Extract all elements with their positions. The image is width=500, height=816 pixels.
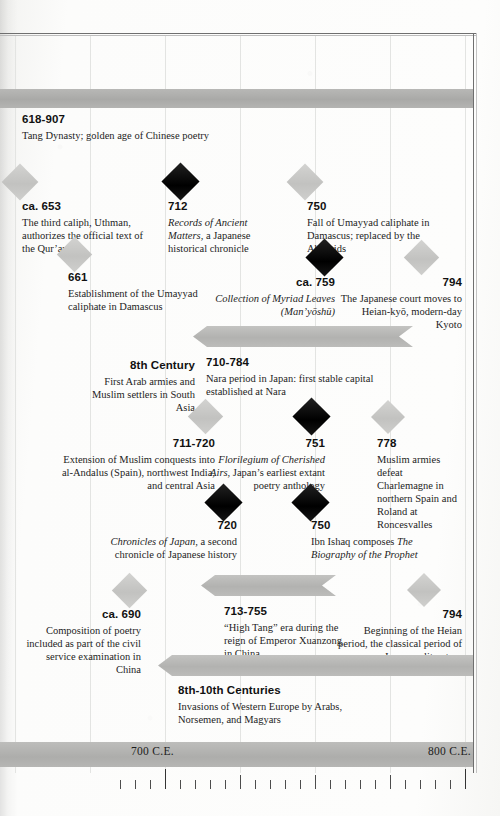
band-desc: Nara period in Japan: first stable capit… (206, 372, 381, 398)
event-desc: Chronicles of Japan, a second chronicle … (80, 535, 237, 561)
event-years: 8th Century (85, 359, 195, 372)
axis-label-800: 800 C.E. (428, 745, 471, 757)
axis-tick (375, 780, 376, 789)
band-years: 8th-10th Centuries (178, 684, 378, 697)
band-desc: Invasions of Western Europe by Arabs, No… (178, 700, 378, 726)
page-frame-right-rule (473, 33, 474, 773)
event-desc: Collection of Myriad Leaves (Man’yōshū) (210, 292, 335, 318)
band-desc: Tang Dynasty; golden age of Chinese poet… (22, 129, 212, 142)
axis-tick (450, 780, 451, 789)
axis-tick (405, 780, 406, 789)
axis-tick (360, 780, 361, 789)
event-years: 778 (377, 437, 459, 450)
event-years: ca. 690 (25, 608, 141, 621)
event-poetry-civil-service: ca. 690 Composition of poetry included a… (25, 608, 141, 676)
event-heian-period-begins: 794 Beginning of the Heian period, the c… (338, 608, 462, 663)
axis-tick (255, 780, 256, 789)
axis-tick (240, 775, 241, 789)
event-uthman-quran: ca. 653 The third caliph, Uthman, author… (22, 200, 152, 255)
axis-tick (165, 769, 166, 789)
event-years: 712 (168, 200, 278, 213)
band-desc: “High Tang” era during the reign of Empe… (224, 621, 344, 660)
event-desc: Establishment of the Umayyad caliphate i… (68, 287, 228, 313)
axis-tick (270, 780, 271, 789)
event-roncesvalles: 778 Muslim armies defeat Charlemagne in … (377, 437, 459, 531)
event-manyoshu: ca. 759 Collection of Myriad Leaves (Man… (210, 276, 335, 318)
axis-tick (120, 780, 121, 789)
diamond-marker-icon-roncesvalles (371, 400, 405, 434)
band-nara-period (193, 326, 413, 347)
event-nihon-shoki: 720 Chronicles of Japan, a second chroni… (80, 519, 237, 561)
event-desc: Ibn Ishaq composes The Biography of the … (311, 535, 446, 561)
axis-tick (315, 775, 316, 789)
event-years: 750 (311, 519, 446, 532)
event-years: 711-720 (55, 437, 215, 450)
axis-tick (150, 780, 151, 789)
event-muslim-conquests-andalus: 711-720 Extension of Muslim conquests in… (55, 437, 215, 492)
event-heian-kyo-move: 794 The Japanese court moves to Heian-ky… (340, 276, 462, 331)
gridline (15, 36, 16, 773)
axis-tick (345, 780, 346, 789)
event-years: ca. 653 (22, 200, 152, 213)
page-frame-top-rule-inner (0, 35, 476, 36)
timeline-axis-ticks (0, 767, 473, 789)
event-kaifuso: 751 Florilegium of Cherished Airs, Japan… (210, 437, 325, 492)
event-years: 661 (68, 271, 228, 284)
event-ibn-ishaq: 750 Ibn Ishaq composes The Biography of … (311, 519, 446, 561)
diamond-marker-icon-heian-period-begins (407, 573, 441, 607)
event-years: 720 (80, 519, 237, 532)
event-desc-title: Collection of Myriad Leaves (Man’yōshū) (215, 293, 335, 317)
axis-tick (195, 780, 196, 789)
diamond-marker-icon-fall-umayyad (287, 164, 324, 201)
event-desc: Composition of poetry included as part o… (25, 624, 141, 676)
axis-tick (225, 780, 226, 789)
axis-tick (285, 780, 286, 789)
axis-tick (435, 780, 436, 789)
timeline-page: 618-907 Tang Dynasty; golden age of Chin… (0, 0, 500, 816)
event-kojiki: 712 Records of Ancient Matters, a Japane… (168, 200, 278, 255)
event-desc: Extension of Muslim conquests into al-An… (55, 453, 215, 492)
event-desc: Records of Ancient Matters, a Japanese h… (168, 216, 278, 255)
diamond-marker-icon-kojiki (161, 162, 199, 200)
timeline-axis-bar (0, 742, 473, 767)
event-years: ca. 759 (210, 276, 335, 289)
axis-tick (300, 780, 301, 789)
page-frame-right-rule-inner (476, 33, 477, 773)
band-tang-dynasty (0, 89, 473, 108)
event-first-arab-armies: 8th Century First Arab armies and Muslim… (85, 359, 195, 414)
axis-tick (180, 780, 181, 789)
band-label-nara-period: 710-784 Nara period in Japan: first stab… (206, 356, 381, 398)
event-desc: The Japanese court moves to Heian-kyō, m… (340, 292, 462, 331)
event-desc: First Arab armies and Muslim settlers in… (85, 375, 195, 414)
event-umayyad-established: 661 Establishment of the Umayyad calipha… (68, 271, 228, 313)
event-years: 750 (307, 200, 447, 213)
axis-tick (330, 780, 331, 789)
band-label-high-tang: 713-755 “High Tang” era during the reign… (224, 605, 344, 660)
event-years: 794 (338, 608, 462, 621)
axis-tick (420, 780, 421, 789)
band-invasions-western-europe (158, 655, 473, 676)
axis-tick (210, 780, 211, 789)
band-years: 618-907 (22, 113, 212, 126)
band-label-tang-dynasty: 618-907 Tang Dynasty; golden age of Chin… (22, 113, 212, 142)
band-years: 710-784 (206, 356, 381, 369)
event-years: 751 (210, 437, 325, 450)
axis-tick (135, 780, 136, 789)
diamond-marker-icon-poetry-civil-service (112, 573, 147, 608)
event-desc-title: Chronicles of Japan (111, 536, 196, 547)
band-label-invasions-western-europe: 8th-10th Centuries Invasions of Western … (178, 684, 378, 726)
axis-tick (465, 769, 466, 789)
band-years: 713-755 (224, 605, 344, 618)
diamond-marker-icon-kaifuso (292, 397, 330, 435)
event-desc-lead: Ibn Ishaq composes (311, 536, 397, 547)
axis-tick (390, 775, 391, 789)
page-frame-top-rule (0, 33, 476, 34)
band-high-tang (201, 575, 336, 596)
axis-label-700: 700 C.E. (131, 745, 174, 757)
event-years: 794 (340, 276, 462, 289)
